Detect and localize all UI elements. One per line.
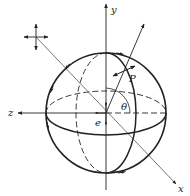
- y-axis-label: y: [110, 4, 117, 15]
- point-p-label: P: [128, 73, 136, 84]
- theta-label: θ: [121, 101, 127, 112]
- center-label: e: [95, 117, 101, 128]
- sphere-diagram: y z x P θ e: [0, 0, 190, 196]
- radius-vector: [106, 24, 144, 113]
- z-axis-label: z: [7, 107, 14, 118]
- x-axis-label: x: [178, 183, 184, 194]
